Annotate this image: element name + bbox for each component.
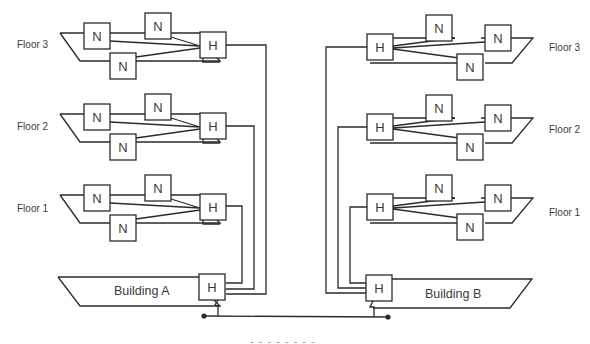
label-building-b: Building B	[425, 287, 481, 301]
label-b-floor-2: Floor 2	[549, 124, 580, 135]
backbone-label-cropped: - - - - - - - -	[250, 336, 340, 344]
building-b-floor-3	[367, 15, 533, 80]
building-b-floor-2	[367, 95, 533, 160]
building-a-floor-1	[60, 175, 226, 241]
label-building-a: Building A	[114, 284, 170, 298]
building-a-floor-2	[60, 94, 226, 160]
label-b-floor-3: Floor 3	[549, 42, 580, 53]
svg-text:H: H	[207, 280, 216, 295]
building-b-floor-1	[367, 175, 533, 240]
network-diagram: N N N H H N N N	[0, 0, 590, 344]
building-a-floor-3	[60, 13, 226, 79]
svg-text:H: H	[374, 281, 383, 296]
label-a-floor-3: Floor 3	[17, 39, 48, 50]
label-a-floor-1: Floor 1	[17, 203, 48, 214]
backbone-cable	[201, 313, 390, 319]
building-b-risers	[326, 47, 367, 293]
label-a-floor-2: Floor 2	[17, 121, 48, 132]
label-b-floor-1: Floor 1	[549, 207, 580, 218]
building-a-risers	[226, 45, 266, 294]
